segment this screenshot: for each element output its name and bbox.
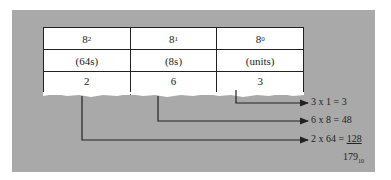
result-value: 17910 bbox=[343, 151, 364, 162]
result-number: 179 bbox=[343, 151, 358, 162]
connector-arrows bbox=[0, 0, 391, 180]
product: 128 bbox=[347, 133, 362, 144]
equation-8s: 6 x 8 = 48 bbox=[311, 114, 352, 125]
equation-units: 3 x 1 = 3 bbox=[311, 96, 347, 107]
result-base: 10 bbox=[358, 158, 364, 164]
arrow-units bbox=[236, 90, 308, 103]
equation-text: 2 x 64 = bbox=[311, 133, 347, 144]
equation-64s: 2 x 64 = 128 bbox=[311, 133, 362, 144]
arrow-8s bbox=[158, 96, 308, 121]
